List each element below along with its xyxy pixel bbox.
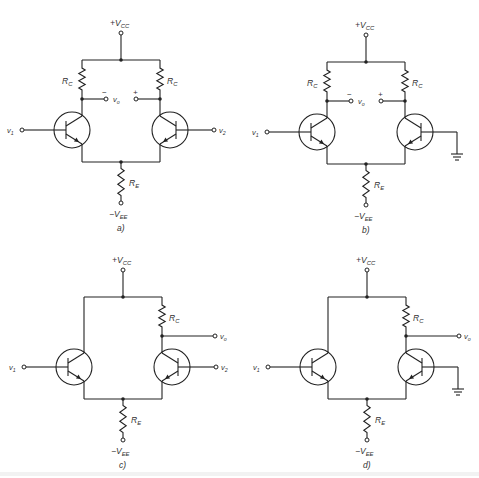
emitter-lead [405, 136, 421, 146]
circuit-panel-d: +VCCRCvov1RE−VEEd) [253, 255, 471, 470]
circuit-panel-b: +VCCRCvo−RC+v1RE−VEEb) [252, 20, 463, 235]
vo-label: vo [464, 332, 471, 342]
v1-label: v1 [253, 363, 260, 373]
terminal-circle-icon [349, 99, 353, 103]
collector-lead [312, 353, 328, 363]
terminal-circle-icon [365, 268, 369, 272]
terminal-circle-icon [121, 268, 125, 272]
resistor-icon [324, 68, 330, 94]
re-label: RE [375, 415, 386, 426]
v2-label: v2 [221, 363, 228, 373]
collector-lead [162, 353, 178, 363]
npn-transistor-icon [299, 114, 335, 150]
terminal-circle-icon [104, 97, 108, 101]
resistor-icon [79, 66, 85, 92]
rc-label: RC [169, 313, 180, 324]
collector-lead [160, 116, 176, 126]
vee-label: −VEE [111, 446, 131, 457]
vcc-label: +VCC [112, 255, 132, 266]
resistor-icon [157, 66, 163, 92]
rc-label: RC [413, 313, 424, 324]
v1-label: v1 [9, 363, 16, 373]
plus-sign: + [133, 88, 138, 97]
npn-transistor-icon [300, 349, 336, 385]
ground-icon [452, 389, 464, 395]
rc-label-left: RC [307, 78, 318, 89]
re-label: RE [374, 180, 385, 191]
panel-label: d) [363, 460, 371, 470]
emitter-lead [406, 371, 422, 381]
emitter-lead [160, 134, 176, 144]
v1-label: v1 [7, 126, 14, 136]
circuit-panel-a: +VCCRCvo−RC+v1v2RE−VEEa) [7, 18, 226, 233]
resistor-icon [363, 168, 369, 200]
vcc-label: +VCC [110, 18, 130, 29]
terminal-circle-icon [364, 33, 368, 37]
terminal-circle-icon [379, 99, 383, 103]
resistor-icon [118, 166, 124, 198]
panel-label: c) [119, 460, 126, 470]
collector-lead [405, 118, 421, 128]
vee-label: −VEE [354, 211, 374, 222]
terminal-circle-icon [121, 438, 125, 442]
plus-sign: + [378, 90, 383, 99]
terminal-circle-icon [22, 365, 26, 369]
npn-transistor-icon [56, 349, 92, 385]
vo-label: vo [220, 332, 227, 342]
npn-transistor-icon [54, 112, 90, 148]
npn-transistor-icon [154, 349, 190, 385]
rc-label-right: RC [412, 78, 423, 89]
terminal-circle-icon [365, 438, 369, 442]
collector-lead [66, 116, 82, 126]
collector-lead [311, 118, 327, 128]
resistor-icon [120, 403, 126, 435]
vee-label: −VEE [109, 209, 129, 220]
emitter-lead [68, 371, 84, 381]
terminal-circle-icon [265, 130, 269, 134]
re-label: RE [131, 415, 142, 426]
rc-label-right: RC [167, 76, 178, 87]
vo-label: vo [113, 95, 120, 105]
minus-sign: − [102, 88, 107, 97]
terminal-circle-icon [457, 334, 461, 338]
terminal-circle-icon [213, 334, 217, 338]
terminal-circle-icon [119, 31, 123, 35]
vee-label: −VEE [355, 446, 375, 457]
differential-amplifier-figure: +VCCRCvo−RC+v1v2RE−VEEa)+VCCRCvo−RC+v1RE… [0, 0, 479, 478]
terminal-circle-icon [214, 365, 218, 369]
terminal-circle-icon [134, 97, 138, 101]
emitter-lead [162, 371, 178, 381]
resistor-icon [364, 403, 370, 435]
collector-lead [68, 353, 84, 363]
terminal-circle-icon [119, 201, 123, 205]
vcc-label: +VCC [356, 255, 376, 266]
vcc-label: +VCC [355, 20, 375, 31]
emitter-lead [312, 371, 328, 381]
ground-icon [451, 154, 463, 160]
resistor-icon [402, 68, 408, 94]
cut-off-caption [0, 472, 479, 476]
npn-transistor-icon [152, 112, 188, 148]
collector-lead [406, 353, 422, 363]
panel-label: a) [117, 223, 125, 233]
v2-label: v2 [219, 126, 226, 136]
terminal-circle-icon [364, 203, 368, 207]
resistor-icon [159, 303, 165, 329]
emitter-lead [311, 136, 327, 146]
terminal-circle-icon [266, 365, 270, 369]
resistor-icon [403, 303, 409, 329]
panel-label: b) [362, 225, 370, 235]
vo-label: vo [358, 97, 365, 107]
minus-sign: − [347, 90, 352, 99]
npn-transistor-icon [397, 114, 433, 150]
terminal-circle-icon [212, 128, 216, 132]
circuit-panel-c: +VCCRCvov1v2RE−VEEc) [9, 255, 228, 470]
rc-label-left: RC [62, 76, 73, 87]
v1-label: v1 [252, 128, 259, 138]
emitter-lead [66, 134, 82, 144]
re-label: RE [129, 178, 140, 189]
npn-transistor-icon [398, 349, 434, 385]
terminal-circle-icon [20, 128, 24, 132]
